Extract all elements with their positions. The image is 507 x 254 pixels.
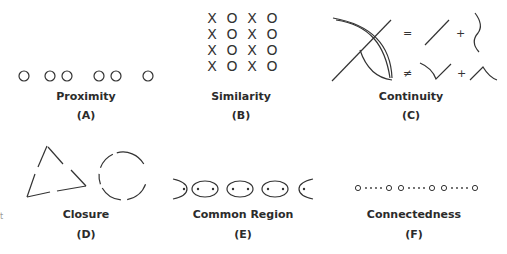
node: [429, 185, 434, 190]
connector-dot: [451, 187, 453, 189]
circle: [45, 71, 55, 81]
panel-a-label: (A): [56, 109, 116, 122]
panel-d-title: Closure: [11, 208, 161, 221]
circle-arc: [102, 188, 121, 200]
x-mark: X: [207, 42, 217, 58]
connector-dot: [461, 187, 463, 189]
triangle-edge: [48, 147, 63, 164]
plus-sign: +: [457, 67, 466, 80]
node: [355, 185, 360, 190]
panel-f-title: Connectedness: [339, 208, 489, 221]
connector-dot: [375, 187, 377, 189]
partial-ellipse: [299, 179, 313, 199]
connector-dot: [423, 187, 425, 189]
v-shape: [420, 63, 451, 79]
panel-c-title: Continuity: [336, 90, 486, 103]
x-mark: X: [207, 26, 217, 42]
connector-dot: [418, 187, 420, 189]
continuity-figure: [332, 13, 497, 81]
triangle-edge: [38, 146, 47, 167]
peak-shape: [470, 67, 497, 80]
proximity-circles: [19, 71, 153, 81]
curve: [333, 18, 392, 78]
node: [472, 185, 477, 190]
panel-f-label: (F): [384, 228, 444, 241]
triangle-edge: [57, 186, 86, 191]
o-mark: O: [266, 10, 277, 26]
o-mark: O: [266, 42, 277, 58]
node: [441, 185, 446, 190]
triangle-edge: [27, 192, 50, 197]
connector-dot: [466, 187, 468, 189]
panel-e-title: Common Region: [168, 208, 318, 221]
connector-dot: [456, 187, 458, 189]
edge-fragment: t: [0, 212, 3, 221]
node: [398, 185, 403, 190]
x-mark: X: [247, 58, 257, 74]
circle: [94, 71, 104, 81]
x-mark: X: [207, 10, 217, 26]
circle-arc: [99, 174, 100, 184]
o-mark: O: [266, 26, 277, 42]
o-mark: O: [226, 42, 237, 58]
x-mark: X: [207, 58, 217, 74]
x-mark: X: [247, 10, 257, 26]
circle-arc: [100, 154, 112, 168]
common-region: [173, 179, 313, 199]
circle-arc: [117, 152, 144, 164]
circle: [62, 71, 72, 81]
o-mark: O: [226, 26, 237, 42]
closure-circle: [99, 152, 146, 200]
panel-b-title: Similarity: [166, 90, 316, 103]
equals-sign: =: [403, 27, 412, 40]
connector-dot: [413, 187, 415, 189]
triangle-edge: [71, 170, 86, 186]
panel-b-label: (B): [211, 109, 271, 122]
closure-triangle: [27, 146, 86, 197]
plus-sign: +: [456, 27, 465, 40]
s-curve: [474, 13, 480, 52]
common-region-dots: [183, 188, 305, 190]
similarity-grid: XOXOXOXOXOXOXOXO: [207, 10, 277, 74]
x-mark: X: [247, 42, 257, 58]
circle: [111, 71, 121, 81]
o-mark: O: [266, 58, 277, 74]
connector-dot: [380, 187, 382, 189]
not-equals-sign: ≠: [403, 67, 412, 80]
node: [386, 185, 391, 190]
triangle-edge: [27, 174, 35, 197]
o-mark: O: [226, 58, 237, 74]
connector-dot: [408, 187, 410, 189]
panel-c-label: (C): [381, 109, 441, 122]
circle: [143, 71, 153, 81]
connector-dot: [365, 187, 367, 189]
panel-e-label: (E): [213, 228, 273, 241]
connector-dot: [370, 187, 372, 189]
circle: [19, 71, 29, 81]
connectedness-groups: [355, 185, 477, 190]
o-mark: O: [226, 10, 237, 26]
straight-segment: [425, 20, 449, 45]
panel-a-title: Proximity: [11, 90, 161, 103]
x-mark: X: [247, 26, 257, 42]
panel-d-label: (D): [56, 228, 116, 241]
circle-arc: [127, 184, 145, 199]
